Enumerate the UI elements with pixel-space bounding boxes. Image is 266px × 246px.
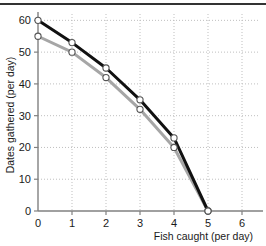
data-point-marker — [137, 97, 143, 103]
y-tick-label: 40 — [19, 78, 31, 90]
x-tick-label: 4 — [171, 217, 177, 229]
line-chart-plot: 0123456 0102030405060 Fish caught (per d… — [0, 0, 266, 246]
x-tick-label: 5 — [205, 217, 211, 229]
y-tick-label: 20 — [19, 141, 31, 153]
x-tick-label: 6 — [239, 217, 245, 229]
y-axis-title: Dates gathered (per day) — [4, 57, 16, 174]
data-point-marker — [69, 39, 75, 45]
x-axis-title: Fish caught (per day) — [154, 230, 253, 242]
data-point-marker — [103, 65, 109, 71]
data-point-marker — [171, 135, 177, 141]
data-point-marker — [205, 208, 211, 214]
y-tick-label: 50 — [19, 46, 31, 58]
x-tick-label: 3 — [137, 217, 143, 229]
data-point-marker — [35, 33, 41, 39]
chart-figure: 0123456 0102030405060 Fish caught (per d… — [0, 0, 266, 246]
x-tick-label: 1 — [69, 217, 75, 229]
y-tick-label: 30 — [19, 110, 31, 122]
data-point-marker — [171, 144, 177, 150]
data-point-marker — [69, 49, 75, 55]
data-point-marker — [137, 106, 143, 112]
y-tick-label: 0 — [25, 205, 31, 217]
x-tick-label: 0 — [35, 217, 41, 229]
series-line-gray-curve — [38, 36, 208, 211]
x-tick-label: 2 — [103, 217, 109, 229]
data-point-marker — [35, 17, 41, 23]
y-tick-label: 10 — [19, 173, 31, 185]
y-tick-labels: 0102030405060 — [19, 14, 31, 217]
x-tick-labels: 0123456 — [35, 217, 245, 229]
y-tick-label: 60 — [19, 14, 31, 26]
data-point-marker — [103, 74, 109, 80]
